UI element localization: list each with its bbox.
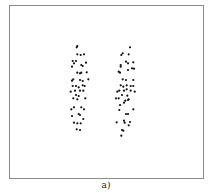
data-point xyxy=(76,122,78,124)
data-point xyxy=(128,124,130,126)
data-point xyxy=(79,129,81,131)
data-point xyxy=(127,113,129,115)
data-point xyxy=(119,104,121,106)
data-point xyxy=(127,99,129,101)
data-point xyxy=(84,97,86,99)
data-point xyxy=(128,53,130,55)
data-point xyxy=(118,109,120,111)
data-point xyxy=(126,95,128,97)
data-point xyxy=(116,121,118,123)
data-point xyxy=(75,94,77,96)
data-point xyxy=(82,80,84,82)
data-point xyxy=(82,90,84,92)
data-point xyxy=(71,80,73,82)
data-point xyxy=(79,114,81,116)
data-point xyxy=(74,90,76,92)
data-point xyxy=(70,91,72,93)
data-point xyxy=(116,91,118,93)
data-point xyxy=(76,98,78,100)
data-point xyxy=(131,67,133,69)
data-point xyxy=(85,62,87,64)
data-point xyxy=(83,53,85,55)
data-point xyxy=(73,106,75,108)
data-point xyxy=(73,122,75,124)
data-point xyxy=(75,60,77,62)
data-point xyxy=(80,72,82,74)
data-point xyxy=(120,54,122,56)
data-point xyxy=(133,68,135,70)
data-point xyxy=(121,94,123,96)
data-point xyxy=(82,84,84,86)
data-point xyxy=(80,64,82,66)
data-point xyxy=(125,113,127,115)
data-point xyxy=(122,86,124,88)
data-point xyxy=(120,84,122,86)
data-point xyxy=(125,79,127,81)
data-point xyxy=(75,85,77,87)
data-point xyxy=(71,66,73,68)
data-point xyxy=(124,100,126,102)
data-point xyxy=(118,90,120,92)
data-point xyxy=(86,71,88,73)
data-point xyxy=(84,85,86,87)
figure-caption: a) xyxy=(0,180,212,191)
series-cluster-right xyxy=(115,46,136,137)
data-point xyxy=(134,91,136,93)
data-point xyxy=(78,86,80,88)
data-point xyxy=(73,62,75,64)
data-point xyxy=(78,95,80,97)
data-point xyxy=(123,102,125,104)
data-point xyxy=(82,118,84,120)
data-point xyxy=(132,61,134,63)
data-point xyxy=(76,72,78,74)
data-point xyxy=(126,88,128,90)
data-point xyxy=(120,135,122,137)
data-point xyxy=(127,69,129,71)
data-point xyxy=(127,62,129,64)
data-point xyxy=(122,52,124,54)
data-point xyxy=(70,108,72,110)
data-point xyxy=(132,79,134,81)
data-point xyxy=(123,120,125,122)
data-point xyxy=(124,122,126,124)
data-point xyxy=(129,46,131,48)
data-point xyxy=(76,128,78,130)
data-point xyxy=(129,121,131,123)
data-point xyxy=(83,108,85,110)
data-point xyxy=(72,97,74,99)
data-point xyxy=(115,97,117,99)
data-point xyxy=(122,78,124,80)
data-point xyxy=(72,85,74,87)
data-point xyxy=(132,85,134,87)
data-point xyxy=(118,97,120,99)
data-point xyxy=(76,53,78,55)
data-point xyxy=(80,122,82,124)
data-point xyxy=(130,85,132,87)
data-point xyxy=(71,115,73,117)
data-point xyxy=(87,78,89,80)
data-point xyxy=(72,60,74,62)
data-point xyxy=(76,46,78,48)
series-cluster-left xyxy=(70,45,90,131)
data-point xyxy=(119,72,121,74)
data-point xyxy=(132,108,134,110)
data-point xyxy=(79,79,81,81)
data-point xyxy=(123,90,125,92)
data-point xyxy=(79,90,81,92)
data-point xyxy=(126,84,128,86)
data-point xyxy=(122,130,124,132)
data-point xyxy=(125,61,127,63)
scatter-plot xyxy=(0,0,212,193)
data-point xyxy=(130,90,132,92)
data-point xyxy=(80,54,82,56)
data-point xyxy=(120,66,122,68)
data-point xyxy=(80,106,82,108)
